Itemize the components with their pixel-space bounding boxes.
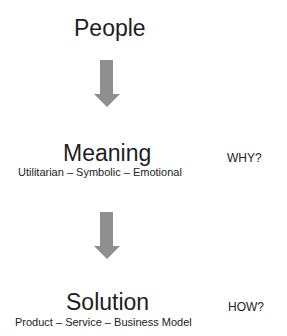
node-meaning-subtitle: Utilitarian – Symbolic – Emotional (18, 166, 182, 179)
node-meaning-title: Meaning (63, 140, 151, 166)
arrow-down-icon (94, 212, 120, 260)
node-solution-subtitle: Product – Service – Business Model (15, 316, 192, 329)
node-solution-question: HOW? (228, 300, 264, 314)
arrow-down-icon (94, 60, 120, 108)
node-meaning-question: WHY? (227, 151, 262, 165)
node-solution-title: Solution (66, 289, 149, 315)
node-people-title: People (74, 15, 146, 41)
